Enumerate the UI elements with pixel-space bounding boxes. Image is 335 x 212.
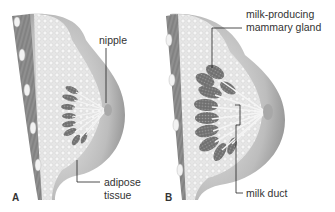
nipple-label: nipple (99, 34, 127, 46)
gland-label-line2: mammary gland (246, 21, 321, 33)
milk-duct-label: milk duct (246, 187, 287, 199)
adipose-label-line2: tissue (104, 189, 131, 201)
gland-label-line1: milk-producing (246, 8, 314, 20)
panel-b-letter: B (165, 192, 172, 203)
panel-b-illustration (166, 14, 285, 200)
nipple-b (263, 104, 273, 120)
panel-a-letter: A (12, 192, 19, 203)
adipose-label-line1: adipose (104, 176, 141, 188)
nipple-a (104, 104, 112, 116)
